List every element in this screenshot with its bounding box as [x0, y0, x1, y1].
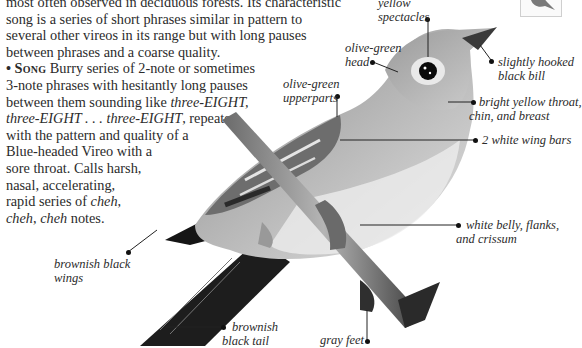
label-line: wings	[54, 272, 130, 286]
label-line: brownish black	[54, 258, 130, 272]
label-brownish-black-wings: brownish black wings	[54, 258, 130, 285]
label-gray-feet: gray feet	[320, 334, 364, 348]
label-line: slightly hooked	[498, 56, 574, 70]
callout-dot	[126, 250, 131, 255]
label-line: olive-green	[283, 78, 339, 92]
label-line: spectacles	[378, 11, 429, 25]
label-slightly-hooked-bill: slightly hooked black bill	[498, 56, 574, 83]
label-line: upperparts	[283, 92, 339, 106]
label-line: chin, and breast	[469, 110, 582, 124]
callout-dot	[473, 138, 478, 143]
label-line: bright yellow throat,	[469, 96, 582, 110]
label-line: gray feet	[320, 334, 364, 348]
eye	[419, 62, 437, 80]
label-olive-green-upperparts: olive-green upperparts	[283, 78, 339, 105]
label-yellow-spectacles: yellow spectacles	[378, 0, 429, 24]
label-bright-yellow-throat: bright yellow throat, chin, and breast	[469, 96, 582, 123]
callout-dot	[365, 339, 370, 344]
label-line: brownish	[222, 321, 278, 335]
label-olive-green-head: olive-green head	[345, 42, 401, 69]
range-thumbnail	[520, 0, 562, 17]
label-line: head	[345, 56, 401, 70]
label-line: yellow	[378, 0, 429, 11]
label-line: white belly, flanks,	[456, 219, 559, 233]
label-line: black tail	[222, 335, 278, 348]
bird-silhouette-icon	[521, 0, 561, 16]
label-white-belly: white belly, flanks, and crissum	[456, 219, 559, 246]
label-line: olive-green	[345, 42, 401, 56]
callout-dot	[489, 59, 494, 64]
label-line: and crissum	[456, 233, 559, 247]
label-line: black bill	[498, 70, 574, 84]
label-brownish-black-tail: brownish black tail	[222, 321, 278, 348]
label-white-wing-bars: 2 white wing bars	[482, 134, 571, 148]
label-line: 2 white wing bars	[482, 134, 571, 148]
